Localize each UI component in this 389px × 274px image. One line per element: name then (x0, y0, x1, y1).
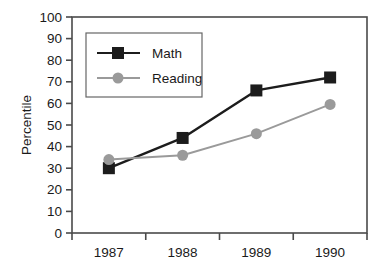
y-tick-label: 40 (47, 139, 62, 154)
y-tick-label: 70 (47, 74, 62, 89)
legend-label-math: Math (152, 46, 182, 61)
legend-marker-square-icon (112, 47, 124, 59)
y-tick-label: 20 (47, 182, 62, 197)
y-tick-label: 0 (54, 226, 62, 241)
legend-marker-circle-icon (113, 73, 124, 84)
y-axis-ticks (66, 17, 72, 233)
y-tick-label: 30 (47, 161, 62, 176)
data-point-marker (325, 99, 336, 110)
legend-label-reading: Reading (152, 71, 202, 86)
y-axis-title: Percentile (19, 95, 34, 155)
percentile-line-chart: 0102030405060708090100 1987198819891990 … (0, 0, 389, 274)
y-tick-label: 90 (47, 31, 62, 46)
y-tick-label: 50 (47, 118, 62, 133)
y-tick-label: 60 (47, 96, 62, 111)
x-axis-tick-labels: 1987198819891990 (94, 245, 345, 260)
legend-box (86, 33, 202, 97)
chart-container: 0102030405060708090100 1987198819891990 … (0, 0, 389, 274)
data-point-marker (250, 84, 262, 96)
chart-legend: Math Reading (86, 33, 202, 97)
x-axis-ticks (72, 233, 367, 240)
x-tick-label: 1990 (315, 245, 345, 260)
x-tick-label: 1987 (94, 245, 124, 260)
y-tick-label: 10 (47, 204, 62, 219)
data-point-marker (324, 71, 336, 83)
y-axis-tick-labels: 0102030405060708090100 (39, 10, 62, 241)
data-point-marker (177, 132, 189, 144)
x-tick-label: 1988 (168, 245, 198, 260)
data-point-marker (251, 128, 262, 139)
y-tick-label: 100 (39, 10, 62, 25)
x-tick-label: 1989 (241, 245, 271, 260)
series-line-reading (109, 104, 330, 159)
y-tick-label: 80 (47, 53, 62, 68)
data-point-marker (177, 150, 188, 161)
data-point-marker (103, 154, 114, 165)
